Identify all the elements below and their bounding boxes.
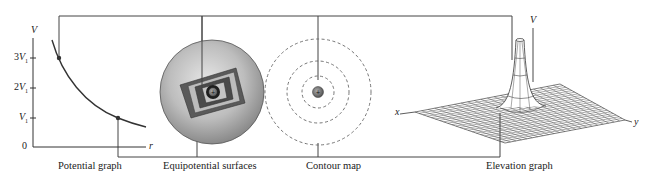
figure-canvas: + + [0, 0, 652, 182]
connector-lines [59, 16, 512, 157]
elevation-graph [400, 28, 632, 143]
equipotential-surfaces: + [160, 16, 264, 144]
point-v1 [116, 116, 120, 120]
tick-3v1: 3V1 [0, 51, 28, 64]
tick-v1: V1 [0, 111, 28, 124]
contour-charge: + [313, 87, 324, 98]
tick-zero: 0 [0, 140, 27, 151]
potential-r-axis-label: r [149, 140, 153, 151]
caption-potential-graph: Potential graph [58, 160, 122, 171]
svg-text:+: + [316, 89, 320, 96]
tick-2v1: 2V1 [0, 81, 28, 94]
charge-symbol: + [211, 89, 215, 96]
elevation-y-axis-label: y [634, 116, 638, 127]
caption-equipotential-surfaces: Equipotential surfaces [163, 160, 257, 171]
caption-elevation-graph: Elevation graph [486, 160, 553, 171]
potential-graph [30, 38, 146, 147]
caption-contour-map: Contour map [306, 160, 361, 171]
potential-curve [52, 40, 146, 127]
elevation-v-axis-label: V [530, 14, 536, 25]
elevation-x-axis-label: x [395, 106, 399, 117]
point-3v1 [57, 56, 61, 60]
potential-v-axis-label: V [31, 24, 37, 35]
